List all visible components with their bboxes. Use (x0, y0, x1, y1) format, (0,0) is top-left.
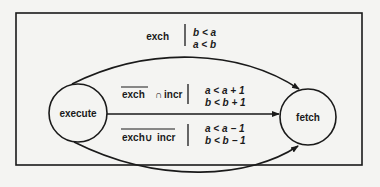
edge-bottom-arrow (74, 142, 298, 172)
edge-middle-guard-term: incr (164, 89, 182, 100)
edge-bottom-guard-op: ∪ (145, 132, 152, 143)
edge-top-action-1: b < a (193, 27, 217, 38)
edge-middle-label: exch ∩ incr a < a + 1 b < b + 1 (121, 84, 246, 108)
state-diagram: execute fetch exch b < a a < b exch ∩ in… (0, 0, 380, 187)
node-fetch: fetch (280, 89, 336, 145)
edge-middle-action-2: b < b + 1 (205, 97, 246, 108)
node-execute-label: execute (59, 108, 97, 119)
edge-top-arrow (72, 57, 299, 89)
node-fetch-label: fetch (296, 112, 320, 123)
edge-middle-action-1: a < a + 1 (205, 85, 245, 96)
edge-bottom-action-1: a < a − 1 (205, 123, 245, 134)
edge-top-label: exch b < a a < b (146, 24, 216, 50)
edge-bottom-guard-right: incr (157, 132, 175, 143)
edge-bottom-action-2: b < b − 1 (205, 135, 246, 146)
edge-top-action-2: a < b (193, 39, 216, 50)
edge-middle-guard-op: ∩ (155, 89, 162, 100)
edge-bottom-guard-left: exch (122, 132, 145, 143)
edge-top-guard: exch (146, 31, 169, 42)
node-execute: execute (49, 84, 107, 142)
edge-middle-guard-negated: exch (122, 89, 145, 100)
edge-bottom-label: exch ∪ incr a < a − 1 b < b − 1 (121, 123, 246, 146)
